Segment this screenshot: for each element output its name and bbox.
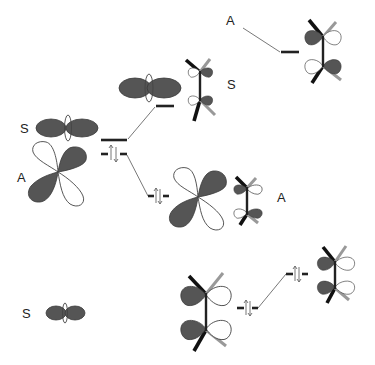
- label-middle-lower-right: A: [277, 190, 286, 205]
- d-orbital-left: [28, 142, 86, 206]
- ethylene-molecule-top-right: [305, 20, 341, 83]
- ethylene-molecule-bottom: [181, 273, 231, 351]
- sigma-orbital-left: [36, 115, 98, 141]
- ethylene-molecule-middle: [186, 59, 215, 121]
- mo-diagram: A S S: [0, 0, 375, 365]
- electron-pair-arrows: [109, 145, 118, 162]
- connector-line: [128, 107, 155, 139]
- ethylene-molecule-bottom-right: [317, 246, 354, 303]
- connector-line: [127, 155, 148, 196]
- connector-line: [243, 28, 280, 52]
- ethylene-molecule-middle-lower: [234, 177, 262, 225]
- sigma-orbital-small: [46, 303, 85, 323]
- label-middle-right: S: [227, 77, 236, 92]
- sigma-orbital-upper: [119, 74, 181, 102]
- d-orbital-middle: [169, 168, 226, 230]
- label-left-upper: S: [20, 121, 29, 136]
- label-top-right: A: [226, 13, 235, 28]
- label-bottom-left: S: [22, 306, 31, 321]
- connector-line: [258, 274, 286, 308]
- label-left-lower: A: [17, 170, 26, 185]
- electron-pair-arrows: [293, 266, 301, 282]
- electron-pair-arrows: [154, 188, 162, 204]
- electron-pair-arrows: [244, 300, 252, 316]
